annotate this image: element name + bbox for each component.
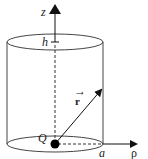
position-vector-label: r xyxy=(75,95,80,107)
charge-point xyxy=(51,140,60,149)
z-axis-label: z xyxy=(40,5,46,19)
radius-label: a xyxy=(99,146,105,159)
rho-axis-label: ρ xyxy=(131,146,137,159)
height-label: h xyxy=(42,35,48,49)
charge-label: Q xyxy=(38,131,47,145)
cylinder-diagram: z h → r Q a ρ xyxy=(0,0,148,159)
